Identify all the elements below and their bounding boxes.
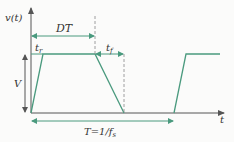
period-subscript: s [112, 131, 116, 139]
amplitude-label: V [14, 79, 21, 89]
pulse-waveform-diagram: v(t) t DT tr tf V T=1/fs [0, 0, 234, 142]
fall-time-subscript: f [110, 47, 113, 55]
rise-time-subscript: r [39, 47, 42, 55]
y-axis-label: v(t) [5, 13, 22, 23]
fall-time-label: tf [106, 43, 113, 55]
period-label: T=1/fs [84, 127, 116, 139]
x-axis-label: t [220, 115, 224, 125]
pulse-1 [31, 54, 124, 113]
duty-label: DT [56, 23, 72, 34]
rise-time-label: tr [35, 43, 42, 55]
period-formula: T=1/f [84, 126, 112, 137]
waveform-svg [0, 0, 234, 142]
pulse-2 [174, 54, 220, 113]
